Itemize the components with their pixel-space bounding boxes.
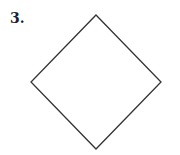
diamond-shape [31, 15, 161, 149]
diamond-figure [0, 0, 180, 155]
